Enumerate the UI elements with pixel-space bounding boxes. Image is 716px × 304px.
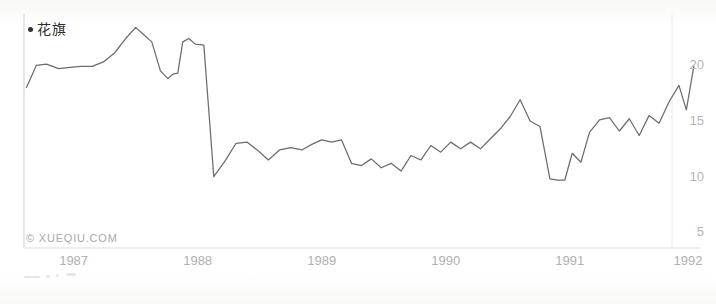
y-tick-label-5: 5 bbox=[676, 225, 704, 238]
x-tick-label-1990: 1990 bbox=[431, 254, 460, 267]
legend-series-label: 花旗 bbox=[37, 22, 66, 36]
axis-lines bbox=[24, 14, 700, 248]
y-tick-label-20: 20 bbox=[676, 58, 704, 71]
y-tick-label-15: 15 bbox=[676, 114, 704, 127]
x-tick-label-1991: 1991 bbox=[555, 254, 584, 267]
line-chart-canvas bbox=[0, 0, 716, 304]
x-tick-label-1992: 1992 bbox=[674, 254, 703, 267]
data-series-line bbox=[26, 27, 693, 180]
scan-artifact bbox=[66, 273, 76, 276]
scan-artifact bbox=[46, 275, 50, 278]
legend-bullet-icon bbox=[28, 27, 33, 32]
chart-legend: 花旗 bbox=[28, 22, 66, 36]
x-tick-label-1988: 1988 bbox=[183, 254, 212, 267]
y-tick-label-10: 10 bbox=[676, 170, 704, 183]
x-tick-label-1989: 1989 bbox=[307, 254, 336, 267]
scan-artifact bbox=[24, 276, 40, 278]
watermark-text: © XUEQIU.COM bbox=[26, 232, 118, 244]
scan-artifact bbox=[56, 274, 59, 277]
chart-screenshot: 花旗 © XUEQIU.COM 5101520 1987198819891990… bbox=[0, 0, 716, 304]
x-tick-label-1987: 1987 bbox=[59, 254, 88, 267]
